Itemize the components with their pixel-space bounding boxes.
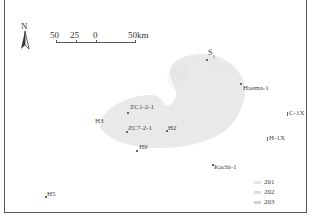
legend-item-203: 203 (254, 198, 275, 206)
legend-swatch-201 (254, 181, 261, 184)
legend-item-201: 201 (254, 178, 275, 186)
well-marker-haema-1[interactable] (240, 83, 242, 85)
legend-item-202: 202 (254, 188, 275, 196)
well-label-s1-sub: 1 (212, 54, 215, 59)
legend-swatch-202 (254, 191, 261, 194)
north-arrow-icon (18, 23, 32, 53)
well-label-h3: H3 (95, 117, 104, 125)
well-label-h2: H2 (168, 124, 177, 132)
well-label-h5: H5 (47, 190, 56, 198)
legend-label-203: 203 (264, 198, 275, 206)
scale-label-25: 25 (70, 30, 79, 40)
map-canvas: N 50 25 0 50km S1 Haema-1 C-1X H-1X ZC1-… (0, 0, 311, 216)
scale-tick (96, 40, 97, 43)
scale-label-50km: 50km (128, 30, 149, 40)
scale-tick (76, 40, 77, 43)
legend-label-201: 201 (264, 178, 275, 186)
legend-swatch-203 (254, 201, 261, 204)
well-label-zc1-2-1: ZC1-2-1 (130, 103, 154, 111)
well-label-h-1x: H-1X (269, 134, 285, 142)
well-label-kachi-1: Kachi-1 (214, 163, 237, 171)
scale-label-0: 0 (93, 30, 98, 40)
well-label-s1: S1 (208, 49, 215, 61)
map-frame-right (306, 0, 307, 213)
map-frame-left (4, 0, 5, 212)
map-frame-bottom (4, 212, 307, 213)
well-marker-h-1x[interactable] (267, 137, 268, 141)
scale-tick (56, 40, 57, 43)
well-label-haema-1: Haema-1 (243, 84, 269, 92)
well-label-h9: H9 (139, 143, 148, 151)
well-label-c-1x: C-1X (289, 109, 305, 117)
well-marker-zc1-2-1[interactable] (127, 112, 129, 114)
well-marker-c-1x[interactable] (287, 112, 288, 116)
legend-label-202: 202 (264, 188, 275, 196)
well-label-zc7-2-1: ZC7-2-1 (128, 124, 152, 132)
scale-label-50: 50 (50, 30, 59, 40)
scale-tick (135, 40, 136, 43)
well-marker-h9[interactable] (136, 150, 138, 152)
